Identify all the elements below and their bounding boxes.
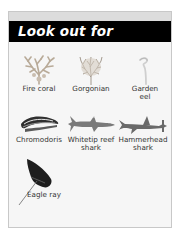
page-title: Look out for (18, 23, 113, 39)
header-banner: Look out for (9, 21, 171, 42)
item-label: Fire coral (13, 85, 65, 93)
item-whitetip-reef-shark: Whitetip reef shark (65, 112, 117, 152)
chromodoris-icon (17, 112, 61, 136)
item-label: Eagle ray (21, 191, 67, 199)
item-label: Chromodoris (13, 136, 65, 144)
fire-coral-icon (22, 55, 56, 85)
hammerhead-shark-icon (117, 112, 169, 136)
top-strip (9, 12, 171, 21)
garden-eel-icon (135, 55, 155, 85)
whitetip-reef-shark-icon (66, 112, 116, 136)
species-panel: Fire coral Gorgonian Garden (9, 42, 171, 227)
item-label: Whitetip reef shark (65, 136, 117, 152)
look-out-for-card: Look out for Fire coral (8, 11, 172, 228)
item-label: Gorgonian (65, 85, 117, 93)
item-hammerhead-shark: Hammerhead shark (117, 112, 169, 152)
item-label: Hammerhead shark (117, 136, 169, 152)
item-gorgonian: Gorgonian (65, 55, 117, 93)
item-label: Garden eel (119, 85, 171, 101)
item-chromodoris: Chromodoris (13, 112, 65, 144)
item-garden-eel: Garden eel (119, 55, 171, 101)
gorgonian-icon (76, 55, 106, 85)
eagle-ray-icon (15, 157, 61, 207)
item-fire-coral: Fire coral (13, 55, 65, 93)
item-eagle-ray: Eagle ray (15, 157, 61, 215)
